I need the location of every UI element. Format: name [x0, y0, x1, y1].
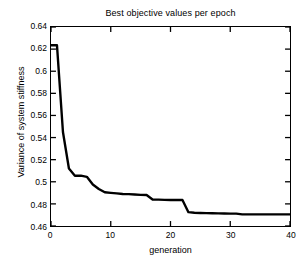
plot-area	[50, 26, 291, 227]
best-objective-curve	[51, 45, 290, 214]
x-tick-label: 0	[48, 230, 53, 240]
chart-figure: Best objective values per epoch Variance…	[0, 0, 307, 266]
x-tick-label: 30	[226, 230, 235, 240]
axis-tick-marks	[51, 27, 290, 226]
data-series-line	[51, 27, 290, 226]
x-tick-label: 20	[166, 230, 175, 240]
x-tick-label: 10	[106, 230, 115, 240]
x-tick-label: 40	[286, 230, 295, 240]
x-axis-label: generation	[50, 245, 291, 255]
